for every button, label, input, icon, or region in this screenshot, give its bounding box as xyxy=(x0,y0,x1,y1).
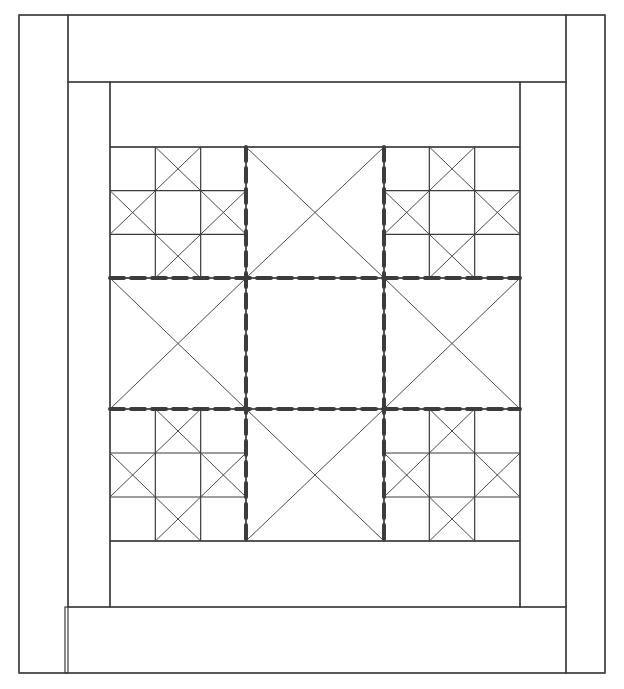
border-outer-top xyxy=(68,15,566,82)
quilt-diagram-svg xyxy=(0,0,624,689)
outer-frame xyxy=(19,15,605,673)
border-outer-right xyxy=(566,15,605,673)
border-inner-right xyxy=(520,82,566,607)
border-inner-left xyxy=(68,82,110,607)
block-nine-patch-star xyxy=(384,409,520,541)
border-outer-left xyxy=(19,15,68,673)
quilt-diagram xyxy=(0,0,624,689)
border-inner-bottom xyxy=(110,541,520,607)
block-plain xyxy=(246,278,384,409)
block-nine-patch-star xyxy=(384,147,520,278)
block-nine-patch-star xyxy=(110,409,246,541)
border-outer-bottom xyxy=(65,607,566,673)
border-inner-top xyxy=(110,82,520,147)
block-nine-patch-star xyxy=(110,147,246,278)
